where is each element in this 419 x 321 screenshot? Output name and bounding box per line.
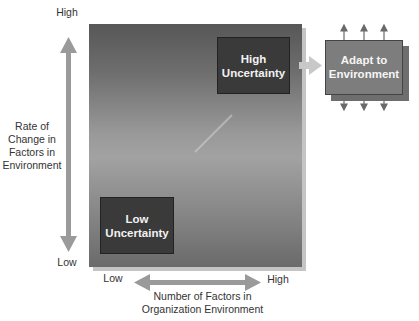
adapt-line: Adapt to: [341, 54, 388, 68]
high-uncertainty-line: Uncertainty: [222, 66, 285, 80]
x-axis-title-line: Number of Factors in: [130, 290, 275, 303]
adapt-line: Environment: [329, 68, 399, 82]
low-uncertainty-box: Low Uncertainty: [100, 197, 174, 254]
x-axis-high-label: High: [263, 273, 293, 286]
low-uncertainty-line: Low: [126, 212, 149, 226]
x-axis-title-line: Organization Environment: [130, 303, 275, 316]
vertical-double-arrow-icon: [60, 37, 77, 252]
high-uncertainty-box: High Uncertainty: [217, 37, 290, 94]
diagonal-arrow-icon: [195, 115, 232, 152]
x-axis-low-label: Low: [98, 272, 128, 285]
right-arrow-icon: [299, 56, 322, 75]
horizontal-double-arrow-icon: [134, 274, 261, 291]
low-uncertainty-line: Uncertainty: [105, 226, 168, 240]
x-axis-title: Number of Factors in Organization Enviro…: [130, 290, 275, 316]
adapt-to-environment-box: Adapt to Environment: [325, 40, 403, 95]
high-uncertainty-line: High: [241, 52, 267, 66]
